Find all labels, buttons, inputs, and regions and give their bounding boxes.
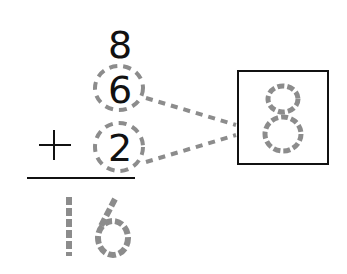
addend-third: 2 <box>108 126 132 170</box>
traced-answer <box>69 197 128 256</box>
connector-top <box>146 98 236 125</box>
addend-first: 8 <box>108 23 132 67</box>
connector-bottom <box>146 135 236 162</box>
plus-icon <box>39 130 71 160</box>
traced-digit-six <box>98 199 128 255</box>
addend-second: 6 <box>108 68 132 112</box>
addition-diagram: 8 6 2 <box>0 0 347 274</box>
